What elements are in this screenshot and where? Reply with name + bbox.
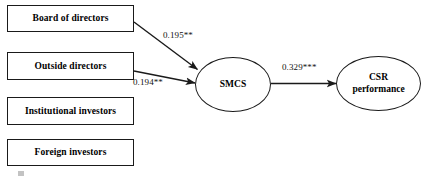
node-label: Foreign investors: [35, 147, 107, 157]
scan-artifact: [18, 171, 24, 176]
node-institutional-investors: Institutional investors: [7, 97, 134, 125]
node-board-of-directors: Board of directors: [7, 5, 134, 32]
node-csr-performance: CSR performance: [336, 56, 421, 111]
node-label-line2: performance: [352, 84, 404, 96]
node-label: Outside directors: [35, 61, 107, 71]
edge-label-outside-to-smcs: 0.194**: [133, 77, 163, 87]
node-label: SMCS: [220, 79, 246, 91]
node-outside-directors: Outside directors: [7, 52, 134, 80]
node-label: Institutional investors: [25, 106, 116, 116]
node-smcs: SMCS: [195, 57, 271, 112]
edge-label-board-to-smcs: 0.195**: [163, 30, 193, 40]
node-foreign-investors: Foreign investors: [7, 139, 134, 166]
path-diagram: Board of directors Outside directors Ins…: [0, 0, 428, 181]
node-label: Board of directors: [32, 13, 108, 23]
edge-label-smcs-to-csr: 0.329***: [282, 62, 317, 72]
node-label-line1: CSR: [369, 72, 388, 84]
